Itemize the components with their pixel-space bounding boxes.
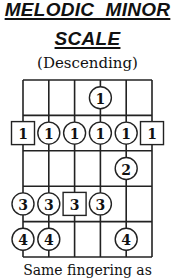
finger-marker: 4 xyxy=(38,228,60,250)
finger-marker: 1 xyxy=(115,122,137,144)
footer-caption: Same fingering as xyxy=(0,261,175,279)
finger-marker: 3 xyxy=(89,193,111,215)
finger-number: 3 xyxy=(44,197,54,213)
finger-marker: 4 xyxy=(115,228,137,250)
finger-marker: 3 xyxy=(63,192,86,215)
finger-number: 1 xyxy=(70,126,80,142)
finger-number: 1 xyxy=(96,91,106,107)
finger-number: 1 xyxy=(44,126,54,142)
finger-number: 3 xyxy=(96,197,106,213)
finger-number: 4 xyxy=(121,232,131,248)
finger-marker: 1 xyxy=(12,122,35,145)
finger-number: 3 xyxy=(18,197,28,213)
finger-number: 1 xyxy=(147,126,157,142)
finger-marker: 1 xyxy=(89,122,111,144)
finger-marker: 4 xyxy=(12,228,34,250)
finger-marker: 3 xyxy=(12,193,34,215)
finger-marker: 3 xyxy=(38,193,60,215)
finger-marker: 1 xyxy=(141,122,164,145)
finger-number: 1 xyxy=(121,126,131,142)
finger-marker: 2 xyxy=(115,158,137,180)
finger-marker: 1 xyxy=(64,122,86,144)
finger-number: 3 xyxy=(70,197,80,213)
finger-marker: 1 xyxy=(89,87,111,109)
finger-markers: 111111123333444 xyxy=(12,87,164,251)
finger-number: 1 xyxy=(18,126,28,142)
finger-number: 4 xyxy=(44,232,54,248)
finger-number: 2 xyxy=(121,162,131,178)
finger-number: 1 xyxy=(96,126,106,142)
finger-marker: 1 xyxy=(38,122,60,144)
finger-number: 4 xyxy=(18,232,28,248)
